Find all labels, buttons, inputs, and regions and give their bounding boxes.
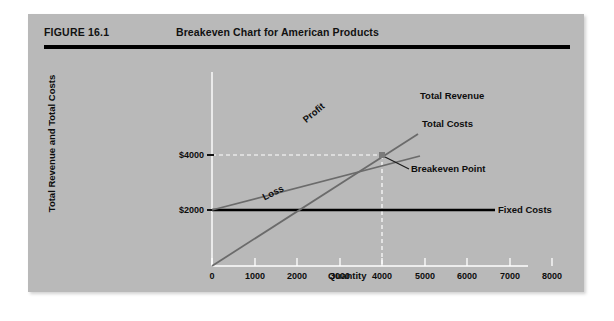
figure-panel: FIGURE 16.1 Breakeven Chart for American…: [28, 14, 584, 292]
x-tick-label-4000: 4000: [362, 271, 402, 281]
figure-number-label: FIGURE 16.1: [44, 26, 109, 38]
x-tick-label-5000: 5000: [405, 271, 445, 281]
x-tick-label-2000: 2000: [277, 271, 317, 281]
series-line-total-costs: [212, 156, 420, 210]
header-divider-rule: [44, 45, 570, 49]
x-axis-title: Quantity: [328, 270, 367, 281]
y-axis-title: Total Revenue and Total Costs: [46, 69, 57, 219]
x-tick-label-6000: 6000: [447, 271, 487, 281]
x-tick-label-8000: 8000: [532, 271, 572, 281]
breakeven-leader-line: [385, 157, 409, 169]
series-label-total-revenue: Total Revenue: [420, 90, 484, 101]
series-line-total-revenue: [212, 134, 418, 266]
breakeven-point-label: Breakeven Point: [411, 163, 485, 174]
x-tick-label-1000: 1000: [235, 271, 275, 281]
x-tick-label-0: 0: [197, 271, 227, 281]
x-tick-label-7000: 7000: [490, 271, 530, 281]
series-label-fixed-costs: Fixed Costs: [498, 204, 552, 215]
figure-title: Breakeven Chart for American Products: [176, 26, 379, 38]
breakeven-point-marker: [379, 152, 385, 158]
y-tick-label-2000: $2000: [134, 205, 204, 215]
y-tick-label-4000: $4000: [134, 150, 204, 160]
chart-svg: [28, 52, 584, 292]
series-label-total-costs: Total Costs: [422, 118, 473, 129]
breakeven-chart-plot: Total Revenue and Total Costs $4000 $200…: [28, 52, 584, 292]
